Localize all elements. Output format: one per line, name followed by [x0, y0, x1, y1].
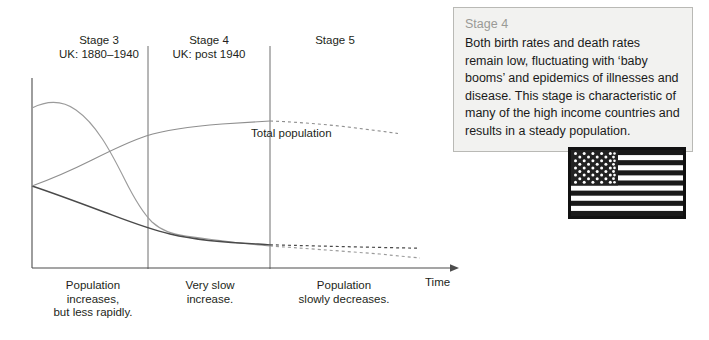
callout-body: Both birth rates and death rates remain … — [465, 35, 681, 141]
caption-stage-3: Population increases, but less rapidly. — [38, 279, 148, 320]
stage-heading-3: Stage 3 UK: 1880–1940 — [46, 33, 152, 61]
page-root: Stage 3 UK: 1880–1940 Stage 4 UK: post 1… — [0, 0, 709, 340]
caption-stage-4-line-2: increase. — [159, 293, 261, 307]
stage-3-detail: UK: 1880–1940 — [46, 47, 152, 61]
stage-5-name: Stage 5 — [315, 34, 355, 46]
stage-heading-5: Stage 5 — [290, 33, 380, 47]
stage-4-name: Stage 4 — [189, 34, 229, 46]
total-population-curve — [32, 121, 270, 186]
callout-title: Stage 4 — [465, 17, 681, 32]
united-states-flag-image — [568, 147, 686, 219]
x-axis-arrowhead — [450, 264, 459, 272]
caption-stage-3-line-1: Population — [38, 279, 148, 293]
caption-stage-5: Population slowly decreases. — [279, 279, 409, 306]
caption-stage-4: Very slow increase. — [159, 279, 261, 306]
stage-4-callout-box: Stage 4 Both birth rates and death rates… — [453, 7, 693, 152]
demographic-transition-diagram: Stage 3 UK: 1880–1940 Stage 4 UK: post 1… — [0, 0, 470, 340]
stage-3-name: Stage 3 — [79, 34, 119, 46]
death-rate-curve-projected — [270, 245, 418, 248]
caption-stage-3-line-3: but less rapidly. — [38, 306, 148, 320]
caption-stage-5-line-1: Population — [279, 279, 409, 293]
stage-heading-4: Stage 4 UK: post 1940 — [159, 33, 259, 61]
stage-4-detail: UK: post 1940 — [159, 47, 259, 61]
us-flag-svg — [568, 147, 686, 219]
x-axis-title: Time — [425, 276, 450, 288]
caption-stage-3-line-2: increases, — [38, 293, 148, 307]
total-population-label: Total population — [251, 127, 332, 139]
caption-stage-4-line-1: Very slow — [159, 279, 261, 293]
death-rate-curve — [32, 186, 270, 245]
caption-stage-5-line-2: slowly decreases. — [279, 293, 409, 307]
